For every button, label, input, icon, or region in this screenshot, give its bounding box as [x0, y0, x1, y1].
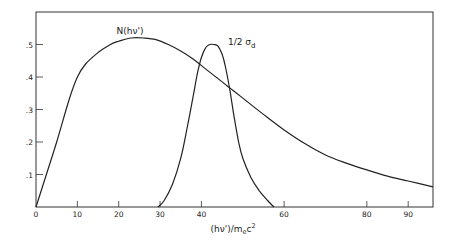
x-tick-label: 80	[362, 210, 372, 219]
x-tick-label: 30	[155, 210, 165, 219]
x-axis-title-main: (hν')/m	[210, 224, 242, 234]
x-tick-label: 60	[279, 210, 289, 219]
y-tick-label: .2	[26, 138, 33, 147]
label-sigma-main: 1/2 σ	[228, 37, 251, 47]
x-axis-title-sup: 2	[251, 222, 255, 230]
curves	[36, 38, 433, 207]
y-axis-ticks: .1.2.3.4.5	[26, 41, 43, 180]
label-sigma-sub: d	[251, 42, 255, 50]
y-tick-label: .1	[26, 171, 33, 180]
x-tick-label: 90	[403, 210, 413, 219]
label-n-hv: N(hν')	[117, 26, 144, 36]
y-tick-label: .5	[26, 41, 33, 50]
curve-half-sigma-d	[158, 44, 274, 207]
x-tick-label: 0	[34, 210, 39, 219]
label-half-sigma-d: 1/2 σd	[228, 37, 256, 50]
x-tick-label: 20	[114, 210, 124, 219]
x-tick-label: 10	[73, 210, 83, 219]
x-axis-title: (hν')/mec2	[210, 222, 255, 236]
y-tick-label: .4	[26, 73, 33, 82]
x-axis-ticks: 010203040608090	[34, 201, 414, 219]
x-tick-label: 40	[197, 210, 207, 219]
chart: 010203040608090 .1.2.3.4.5 N(hν') 1/2 σd…	[0, 0, 456, 249]
y-tick-label: .3	[26, 106, 33, 115]
